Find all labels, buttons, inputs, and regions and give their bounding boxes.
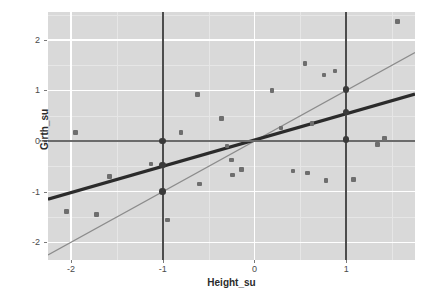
- plot-panel: [48, 12, 415, 260]
- data-point: [149, 162, 154, 167]
- data-point: [239, 167, 244, 172]
- data-point: [219, 116, 224, 121]
- data-point: [305, 171, 310, 176]
- emphasis-data-point: [159, 162, 166, 169]
- data-point: [279, 126, 284, 131]
- x-axis-tick-label: 1: [344, 264, 349, 274]
- emphasis-data-point: [343, 86, 350, 93]
- y-axis-tick-mark: [44, 40, 47, 41]
- data-point: [291, 169, 296, 174]
- x-axis-tick-mark: [71, 260, 72, 263]
- data-point: [351, 177, 356, 182]
- data-point: [324, 178, 329, 183]
- emphasis-data-point: [159, 188, 166, 195]
- y-axis-tick-label: -2: [32, 237, 40, 247]
- data-point: [73, 130, 78, 135]
- data-point: [165, 218, 170, 223]
- x-axis-tick-label: 0: [252, 264, 257, 274]
- x-axis-tick-mark: [254, 260, 255, 263]
- x-axis-tick-label: -2: [67, 264, 75, 274]
- data-point: [322, 73, 327, 78]
- x-axis-tick-label: -1: [159, 264, 167, 274]
- data-point: [395, 19, 400, 24]
- y-axis-tick-label: 2: [35, 35, 40, 45]
- x-axis-tick-mark: [346, 260, 347, 263]
- data-point: [64, 209, 69, 214]
- data-point: [107, 174, 112, 179]
- data-point: [179, 130, 184, 135]
- reference-line-horizontal: [48, 140, 415, 141]
- fitted-regression-line: [48, 94, 415, 199]
- x-axis-tick-mark: [163, 260, 164, 263]
- y-axis-tick-mark: [44, 192, 47, 193]
- data-point: [310, 121, 315, 126]
- data-point: [230, 173, 235, 178]
- reference-line-vertical: [162, 12, 164, 260]
- data-point: [197, 182, 202, 187]
- y-axis-label: Girth_su: [39, 70, 50, 190]
- data-point: [303, 61, 308, 66]
- scatter-plot-figure: -2-1012-2-101 Girth_su Height_su: [0, 0, 435, 298]
- data-point: [270, 88, 275, 93]
- data-point: [229, 158, 234, 163]
- y-axis-tick-mark: [44, 242, 47, 243]
- x-axis-label: Height_su: [48, 277, 415, 288]
- data-point: [195, 92, 200, 97]
- data-point: [225, 144, 230, 149]
- data-point: [375, 142, 380, 147]
- data-point: [94, 212, 99, 217]
- identity-reference-line: [48, 52, 415, 254]
- regression-lines: [48, 12, 415, 260]
- data-point: [382, 136, 387, 141]
